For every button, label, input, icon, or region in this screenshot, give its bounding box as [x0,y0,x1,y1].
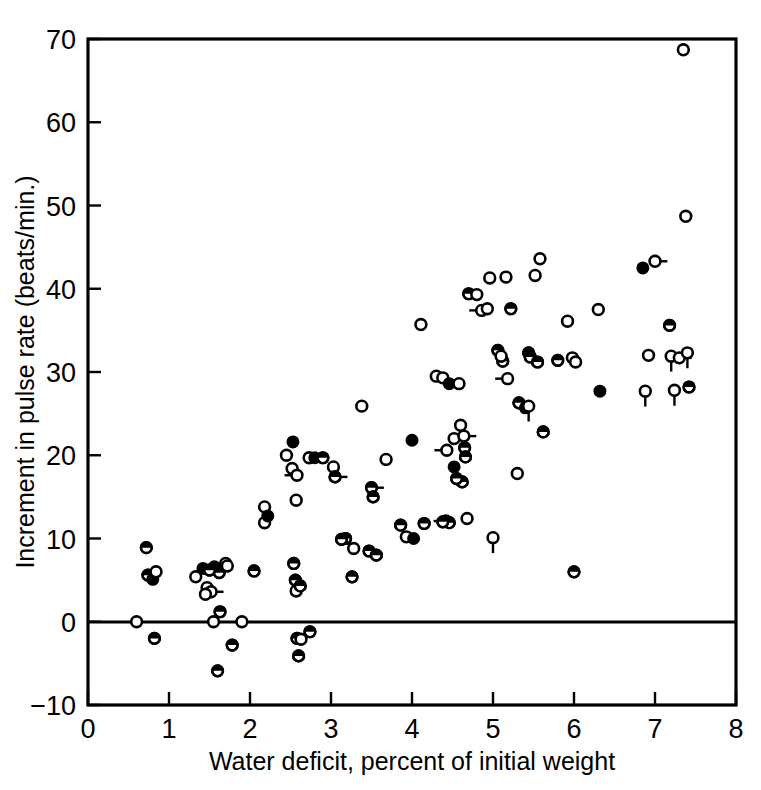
data-point [222,561,233,572]
marker-open-circle [292,470,303,481]
data-point [595,386,606,397]
data-point [680,211,691,222]
data-point [336,534,347,545]
scatter-plot-figure: −10010203040506070 012345678 Increment i… [0,0,761,790]
data-point [356,401,367,412]
data-point [318,452,329,463]
data-point [458,431,476,442]
data-point [204,565,215,576]
marker-open-circle [441,445,452,456]
data-point [505,303,516,314]
marker-open-circle [484,273,495,284]
x-ticklabel-7: 7 [647,714,662,744]
data-point [212,665,223,676]
data-point [682,347,693,368]
data-point [637,263,648,274]
marker-open-circle [562,316,573,327]
data-point-markers [131,44,694,676]
y-axis-title: Increment in pulse rate (beats/min.) [11,175,39,568]
data-point [262,511,273,522]
data-point [407,435,418,446]
data-point [368,491,379,502]
marker-open-circle [348,543,359,554]
y-ticklabel-10: 10 [46,525,76,555]
data-point [678,44,689,55]
marker-open-circle [222,561,233,572]
marker-open-circle [131,616,142,627]
data-point [650,256,668,267]
marker-open-circle [237,616,248,627]
data-point [395,520,406,531]
marker-open-circle [680,211,691,222]
x-axis-title: Water deficit, percent of initial weight [209,747,615,775]
x-ticklabel-5: 5 [485,714,500,744]
data-point [482,303,493,314]
marker-open-circle [682,347,693,358]
data-point [419,518,430,529]
data-point [530,270,541,281]
data-point [532,357,543,368]
data-point [437,516,448,527]
data-point [347,571,358,582]
x-ticklabel-4: 4 [404,714,419,744]
data-point [408,533,419,544]
data-point [454,378,465,389]
marker-open-circle [281,450,292,461]
data-point [501,272,512,283]
data-point [669,385,680,406]
marker-open-circle [381,454,392,465]
data-point [293,650,304,661]
marker-open-circle [502,373,513,384]
marker-open-circle [523,401,534,412]
data-point [305,626,316,637]
data-point [381,454,392,465]
marker-open-circle [488,532,499,543]
marker-open-circle [458,431,469,442]
data-point [523,401,534,422]
marker-open-circle [200,589,211,600]
data-point [200,589,211,600]
marker-open-circle [640,386,651,397]
marker-filled-circle [407,435,418,446]
data-point [512,468,523,479]
marker-open-circle [593,304,604,315]
data-point [330,471,348,482]
marker-open-circle [512,468,523,479]
y-ticklabel-40: 40 [46,275,76,305]
data-point [288,437,299,448]
y-ticklabel-70: 70 [46,25,76,55]
marker-open-circle [501,272,512,283]
plot-svg: −10010203040506070 012345678 Increment i… [0,0,761,790]
y-ticklabel-20: 20 [46,441,76,471]
data-point [496,351,507,362]
data-point [535,253,546,264]
data-point [131,616,142,627]
data-point [484,273,495,284]
y-ticklabel-50: 50 [46,192,76,222]
data-point [451,473,462,484]
data-point [141,542,152,553]
marker-open-circle [416,319,427,330]
data-point [538,427,549,438]
data-point [640,386,651,407]
marker-filled-circle [449,462,460,473]
plot-frame-border [88,39,736,705]
x-ticklabel-8: 8 [728,714,743,744]
y-ticklabel-0: 0 [61,608,76,638]
data-point [288,558,299,569]
data-point [471,289,482,300]
data-point [643,350,654,361]
data-point [149,633,160,644]
marker-open-circle [462,513,473,524]
data-point [249,566,260,577]
data-point [237,616,248,627]
marker-open-circle [455,420,466,431]
marker-open-circle [471,289,482,300]
data-point [552,355,563,366]
marker-open-circle [454,378,465,389]
data-point [488,532,499,553]
marker-open-circle [669,385,680,396]
data-point [291,495,302,506]
data-point [460,452,471,463]
marker-open-circle [291,495,302,506]
